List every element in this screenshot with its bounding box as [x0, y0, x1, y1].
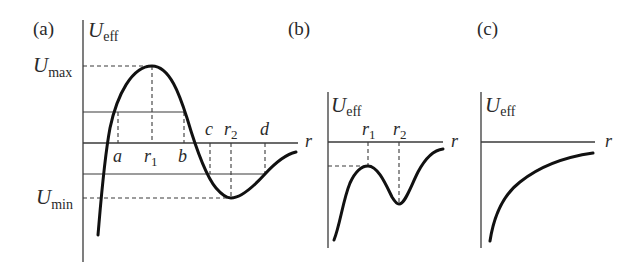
panel-c-label: (c): [477, 18, 498, 40]
effective-potential-figure: (a) Ueff r Umax Umin a r1 b c r2 d: [0, 0, 644, 270]
point-d-label: d: [260, 119, 270, 139]
panel-c: (c) Ueff r: [477, 18, 613, 248]
point-r2-label: r2: [224, 119, 238, 142]
point-r1-label: r1: [144, 146, 158, 169]
u-min-label: Umin: [36, 185, 73, 212]
panel-c-y-label: Ueff: [485, 93, 516, 119]
panel-b: (b) Ueff r r1 r2: [288, 18, 459, 248]
point-c-label: c: [205, 119, 213, 139]
panel-b-r1-label: r1: [362, 119, 376, 142]
panel-a-r-label: r: [305, 131, 313, 151]
point-b-label: b: [178, 146, 187, 166]
point-a-label: a: [113, 146, 122, 166]
panel-c-r-label: r: [605, 131, 613, 151]
panel-a-y-label: Ueff: [88, 18, 119, 44]
panel-b-r-label: r: [451, 131, 459, 151]
panel-b-y-label: Ueff: [331, 93, 362, 119]
panel-b-r2-label: r2: [393, 119, 407, 142]
panel-b-label: (b): [288, 18, 310, 40]
panel-b-potential-curve: [334, 149, 443, 240]
panel-a-label: (a): [33, 18, 54, 40]
u-max-label: Umax: [33, 53, 72, 80]
panel-a: (a) Ueff r Umax Umin a r1 b c r2 d: [33, 18, 313, 262]
panel-a-potential-curve: [98, 66, 296, 235]
panel-c-potential-curve: [490, 153, 593, 241]
